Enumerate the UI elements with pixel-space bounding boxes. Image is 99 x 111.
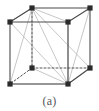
bond-lines-layer <box>10 8 90 84</box>
bond-line <box>32 68 68 84</box>
atom-node <box>65 81 70 86</box>
atom-node <box>29 65 34 70</box>
hidden-edge <box>10 68 32 84</box>
atom-node <box>7 81 12 86</box>
atom-node <box>7 19 12 24</box>
atom-node <box>87 5 92 10</box>
figure-caption: (a) <box>0 93 99 109</box>
atom-node <box>87 65 92 70</box>
atom-node <box>65 19 70 24</box>
atom-node <box>29 5 34 10</box>
bond-line <box>32 8 68 84</box>
cube-edge <box>68 68 90 84</box>
cubic-unit-cell-diagram <box>0 0 99 95</box>
lattice-figure: (a) <box>0 0 99 111</box>
